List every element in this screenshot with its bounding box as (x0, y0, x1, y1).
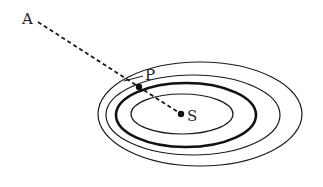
orbit-diagram: A P S (0, 0, 323, 187)
point-p (136, 84, 142, 90)
outer-ellipse (98, 62, 302, 166)
label-s: S (187, 107, 197, 125)
thick-ellipse (116, 83, 256, 147)
dashed-line-a-to-s (38, 22, 181, 114)
label-p: P (145, 66, 155, 84)
label-a: A (21, 10, 33, 28)
point-s (178, 111, 184, 117)
